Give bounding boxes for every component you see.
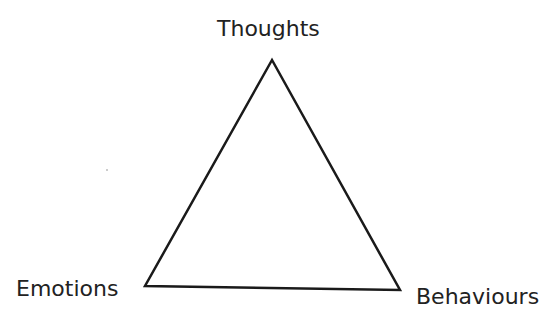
node-thoughts: Thoughts: [217, 16, 320, 41]
node-emotions: Emotions: [16, 276, 118, 301]
triangle-diagram: [0, 0, 559, 318]
node-behaviours: Behaviours: [416, 284, 539, 309]
triangle-outline: [145, 60, 400, 290]
stray-dot: [106, 169, 108, 171]
